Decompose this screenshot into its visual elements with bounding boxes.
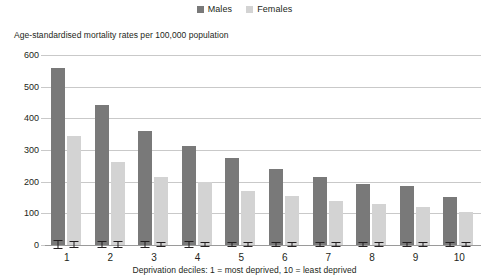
x-tick-label: 1 bbox=[45, 252, 89, 263]
error-bar-cap-bottom bbox=[446, 246, 455, 247]
y-tick-label: 100 bbox=[5, 209, 39, 218]
y-tick-label: 0 bbox=[5, 241, 39, 250]
bar-male[interactable] bbox=[356, 184, 370, 245]
bar-group bbox=[219, 55, 263, 245]
error-bar-cap-top bbox=[446, 242, 455, 243]
error-bar-cap-top bbox=[315, 242, 324, 243]
y-tick-label: 300 bbox=[5, 146, 39, 155]
bar-male[interactable] bbox=[269, 169, 283, 245]
bar-female[interactable] bbox=[198, 182, 212, 245]
bar-group bbox=[307, 55, 351, 245]
error-bar-cap-top bbox=[70, 241, 79, 242]
x-tick-label: 6 bbox=[263, 252, 307, 263]
x-tick-label: 9 bbox=[394, 252, 438, 263]
legend-swatch-males bbox=[197, 6, 204, 13]
error-bar-cap-top bbox=[375, 242, 384, 243]
x-tick-label: 10 bbox=[437, 252, 481, 263]
legend-label-males: Males bbox=[208, 5, 233, 14]
error-bar-cap-top bbox=[141, 241, 150, 242]
bar-group bbox=[437, 55, 481, 245]
y-tick-label: 400 bbox=[5, 114, 39, 123]
y-tick-label: 600 bbox=[5, 51, 39, 60]
bar-male[interactable] bbox=[400, 186, 414, 245]
bar-female[interactable] bbox=[372, 204, 386, 245]
error-bar-cap-top bbox=[462, 242, 471, 243]
error-bar-cap-bottom bbox=[97, 247, 106, 248]
y-axis-labels: 0100200300400500600 bbox=[0, 55, 39, 245]
x-tick-label: 8 bbox=[350, 252, 394, 263]
chart-legend: Males Females bbox=[0, 2, 489, 16]
bar-male[interactable] bbox=[95, 105, 109, 245]
bar-male[interactable] bbox=[443, 197, 457, 245]
legend-entry-females: Females bbox=[246, 5, 292, 14]
bar-group bbox=[132, 55, 176, 245]
y-tick-label: 500 bbox=[5, 83, 39, 92]
plot-area bbox=[45, 55, 481, 245]
bar-female[interactable] bbox=[154, 177, 168, 245]
error-bar-cap-bottom bbox=[228, 246, 237, 247]
error-bar-cap-top bbox=[228, 242, 237, 243]
error-bar-cap-bottom bbox=[184, 247, 193, 248]
error-bar-cap-bottom bbox=[315, 246, 324, 247]
error-bar-cap-bottom bbox=[418, 246, 427, 247]
bar-male[interactable] bbox=[313, 177, 327, 245]
error-bar-cap-bottom bbox=[244, 246, 253, 247]
error-bar-cap-bottom bbox=[331, 246, 340, 247]
bar-group bbox=[89, 55, 133, 245]
error-bar-cap-bottom bbox=[288, 246, 297, 247]
error-bar-cap-bottom bbox=[70, 247, 79, 248]
x-axis-baseline bbox=[42, 245, 481, 246]
x-tick-label: 4 bbox=[176, 252, 220, 263]
bar-female[interactable] bbox=[241, 191, 255, 245]
legend-label-females: Females bbox=[257, 5, 292, 14]
error-bar-cap-top bbox=[331, 242, 340, 243]
error-bar-cap-bottom bbox=[402, 246, 411, 247]
x-axis-title: Deprivation deciles: 1 = most deprived, … bbox=[0, 265, 489, 275]
x-tick-label: 5 bbox=[219, 252, 263, 263]
error-bar-cap-bottom bbox=[462, 246, 471, 247]
error-bar-cap-top bbox=[402, 242, 411, 243]
error-bar-cap-top bbox=[244, 242, 253, 243]
error-bar-cap-top bbox=[184, 241, 193, 242]
error-bar-cap-top bbox=[359, 242, 368, 243]
bar-male[interactable] bbox=[138, 131, 152, 245]
error-bar-cap-bottom bbox=[141, 247, 150, 248]
error-bar-cap-bottom bbox=[200, 246, 209, 247]
bar-group bbox=[350, 55, 394, 245]
x-tick-label: 3 bbox=[132, 252, 176, 263]
bar-female[interactable] bbox=[285, 196, 299, 245]
error-bar-cap-bottom bbox=[272, 246, 281, 247]
bar-female[interactable] bbox=[111, 162, 125, 245]
bar-female[interactable] bbox=[416, 207, 430, 245]
bar-female[interactable] bbox=[329, 201, 343, 245]
error-bar-cap-top bbox=[272, 242, 281, 243]
x-tick-label: 2 bbox=[89, 252, 133, 263]
error-bar-cap-top bbox=[418, 242, 427, 243]
bar-female[interactable] bbox=[67, 136, 81, 245]
error-bar-cap-bottom bbox=[359, 246, 368, 247]
legend-swatch-females bbox=[246, 6, 253, 13]
y-tick-label: 200 bbox=[5, 178, 39, 187]
bar-group bbox=[263, 55, 307, 245]
error-bar-cap-top bbox=[113, 241, 122, 242]
error-bar-cap-bottom bbox=[375, 246, 384, 247]
mortality-bar-chart: Males Females Age-standardised mortality… bbox=[0, 0, 489, 280]
bar-female[interactable] bbox=[459, 212, 473, 245]
bar-group bbox=[45, 55, 89, 245]
bar-group bbox=[176, 55, 220, 245]
error-bar-cap-top bbox=[54, 240, 63, 241]
error-bar-cap-bottom bbox=[113, 247, 122, 248]
error-bar-cap-top bbox=[97, 241, 106, 242]
bar-male[interactable] bbox=[51, 68, 65, 245]
error-bar-cap-top bbox=[288, 242, 297, 243]
error-bar-cap-top bbox=[157, 242, 166, 243]
error-bar-cap-bottom bbox=[157, 246, 166, 247]
bar-group bbox=[394, 55, 438, 245]
y-axis-note: Age-standardised mortality rates per 100… bbox=[14, 30, 228, 40]
x-axis-labels: 12345678910 bbox=[45, 249, 481, 263]
bar-male[interactable] bbox=[182, 146, 196, 245]
error-bar-cap-top bbox=[200, 242, 209, 243]
x-tick-label: 7 bbox=[307, 252, 351, 263]
legend-entry-males: Males bbox=[197, 5, 233, 14]
bar-male[interactable] bbox=[225, 158, 239, 245]
